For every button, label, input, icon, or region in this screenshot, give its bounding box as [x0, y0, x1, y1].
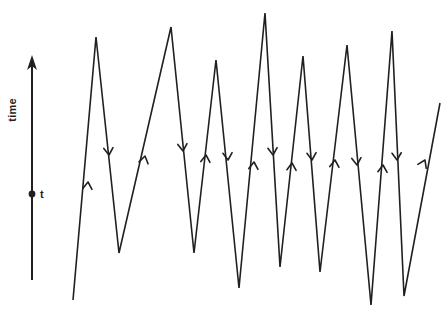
segment-arrow-down-3 — [223, 153, 233, 161]
zigzag-diagram-svg: time t — [0, 0, 443, 311]
segment-arrow-up-6 — [330, 160, 340, 168]
time-axis-label: time — [6, 98, 18, 121]
time-axis-group: time t — [6, 55, 44, 280]
figure-canvas: time t — [0, 0, 443, 311]
segment-arrow-up-3 — [201, 155, 211, 163]
zigzag-path-group — [73, 13, 440, 305]
zigzag-worldline — [73, 13, 440, 305]
time-tick-label: t — [40, 188, 44, 200]
segment-arrow-down-5 — [307, 153, 317, 161]
segment-arrow-down-6 — [352, 158, 362, 166]
segment-arrow-up-7 — [378, 165, 388, 173]
time-tick-dot — [29, 191, 36, 198]
segment-arrow-up-1 — [83, 182, 93, 190]
